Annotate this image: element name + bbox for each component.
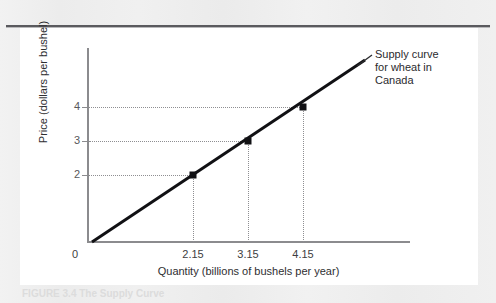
data-point-marker <box>245 138 252 145</box>
figure-panel: 4 3 2 0 2.15 3.15 4.1 <box>20 28 478 285</box>
data-point-marker <box>190 172 197 179</box>
supply-curve-line <box>92 60 365 242</box>
annotation-line-3: Canada <box>375 74 475 87</box>
supply-curve-annotation: Supply curve for wheat in Canada <box>375 48 475 87</box>
page-background: 4 3 2 0 2.15 3.15 4.1 <box>0 0 496 303</box>
x-axis-title: Quantity (billions of bushels per year) <box>87 265 410 277</box>
chart-plot-area: 4 3 2 0 2.15 3.15 4.1 <box>20 28 478 285</box>
x-tick-label-4-15: 4.15 <box>283 248 323 260</box>
annotation-line-2: for wheat in <box>375 61 475 74</box>
figure-caption: FIGURE 3.4 The Supply Curve <box>22 288 322 299</box>
y-axis-title: Price (dollars per bushel) <box>37 0 49 167</box>
x-tick-label-2-15: 2.15 <box>173 248 213 260</box>
annotation-leader-line <box>357 55 372 66</box>
annotation-line-1: Supply curve <box>375 48 475 61</box>
data-point-marker <box>300 104 307 111</box>
x-tick-label-3-15: 3.15 <box>228 248 268 260</box>
